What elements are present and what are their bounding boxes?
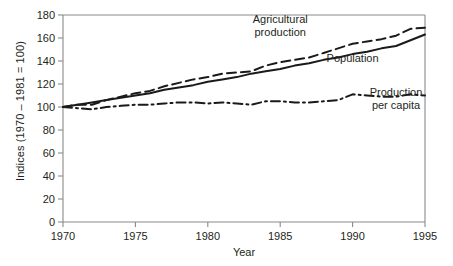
y-tick-label: 20: [43, 193, 55, 205]
agricultural-production-label: Agricultural: [253, 13, 308, 25]
y-tick-label: 180: [37, 9, 55, 21]
x-tick-label: 1980: [196, 230, 220, 242]
x-tick-label: 1985: [268, 230, 292, 242]
y-tick-label: 0: [49, 216, 55, 228]
y-axis-ticks: 020406080100120140160180: [37, 9, 63, 228]
y-tick-label: 100: [37, 101, 55, 113]
x-tick-label: 1990: [340, 230, 364, 242]
production-per-capita-label: Production: [370, 86, 423, 98]
agricultural-production-label-line2: production: [255, 26, 306, 38]
y-tick-label: 140: [37, 55, 55, 67]
plot-background: [63, 15, 425, 222]
production-per-capita-label-line2: per capita: [372, 99, 421, 111]
y-tick-label: 80: [43, 124, 55, 136]
population-label: Population: [327, 52, 379, 64]
x-tick-label: 1970: [51, 230, 75, 242]
x-tick-label: 1975: [123, 230, 147, 242]
chart-container: Indices (1970 – 1981 = 100) Year 1970197…: [0, 0, 453, 266]
y-tick-label: 160: [37, 32, 55, 44]
x-axis-ticks: 197019751980198519901995: [51, 222, 437, 242]
y-tick-label: 60: [43, 147, 55, 159]
x-tick-label: 1995: [413, 230, 437, 242]
y-tick-label: 40: [43, 170, 55, 182]
chart-plot: 197019751980198519901995 020406080100120…: [0, 0, 453, 266]
y-tick-label: 120: [37, 78, 55, 90]
